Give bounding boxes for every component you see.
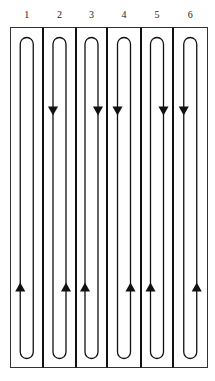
lane-dividers	[43, 28, 173, 368]
up-arrow-icon	[192, 283, 202, 292]
up-arrow-icon	[15, 283, 25, 292]
down-arrow-icon	[179, 107, 189, 116]
lane-label: 5	[155, 9, 160, 20]
lane-label: 1	[24, 9, 29, 20]
lane-loop	[184, 38, 197, 359]
lane-loop	[118, 38, 131, 359]
lane-loop	[53, 38, 66, 359]
lane-loop	[85, 38, 98, 359]
up-arrow-icon	[126, 283, 136, 292]
lane-label: 3	[89, 9, 94, 20]
down-arrow-icon	[48, 107, 58, 116]
lane-label: 6	[188, 9, 193, 20]
lane-label: 4	[122, 9, 127, 20]
down-arrow-icon	[159, 107, 169, 116]
up-arrow-icon	[61, 283, 71, 292]
lane-loop	[151, 38, 164, 359]
down-arrow-icon	[113, 107, 123, 116]
up-arrow-icon	[146, 283, 156, 292]
serpentine-lanes-diagram: 123456	[0, 0, 215, 381]
down-arrow-icon	[93, 107, 103, 116]
lane-labels: 123456	[24, 9, 193, 20]
lane-loop	[20, 38, 33, 359]
up-arrow-icon	[80, 283, 90, 292]
lane-label: 2	[57, 9, 62, 20]
outer-frame	[11, 28, 208, 368]
